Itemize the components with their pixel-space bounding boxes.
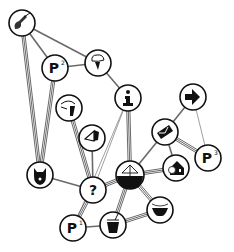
node-tools[interactable] — [56, 95, 82, 121]
node-sail[interactable] — [79, 125, 105, 151]
node-circle — [56, 95, 82, 121]
nodes-layer: P2P3?P1 — [9, 10, 221, 241]
parking-letter: P — [49, 60, 59, 76]
node-p1[interactable]: P1 — [60, 215, 86, 241]
edge-p2-cat — [38, 68, 56, 175]
node-circle — [9, 10, 35, 36]
svg-text:?: ? — [89, 182, 97, 198]
node-cup[interactable] — [100, 212, 126, 238]
node-cat[interactable] — [27, 162, 53, 188]
node-arrow[interactable] — [180, 84, 206, 110]
node-bowl[interactable] — [147, 197, 173, 223]
question-icon: ? — [89, 182, 97, 198]
node-p3[interactable]: P3 — [195, 145, 221, 171]
parking-number: 2 — [61, 59, 65, 66]
node-help[interactable]: ? — [80, 177, 106, 203]
node-weather[interactable] — [85, 50, 111, 76]
node-circle — [79, 125, 105, 151]
parking-letter: P — [202, 150, 212, 166]
edges-layer — [20, 23, 208, 229]
parking-number: 1 — [79, 219, 83, 226]
node-mail[interactable] — [152, 119, 178, 145]
node-house[interactable] — [163, 155, 189, 181]
node-info[interactable] — [115, 85, 141, 111]
network-diagram: P2P3?P1 — [0, 0, 234, 252]
parking-letter: P — [67, 220, 77, 236]
node-ship[interactable] — [116, 161, 144, 189]
parking-number: 3 — [214, 149, 218, 156]
node-guitar[interactable] — [9, 10, 35, 36]
node-p2[interactable]: P2 — [42, 55, 68, 81]
